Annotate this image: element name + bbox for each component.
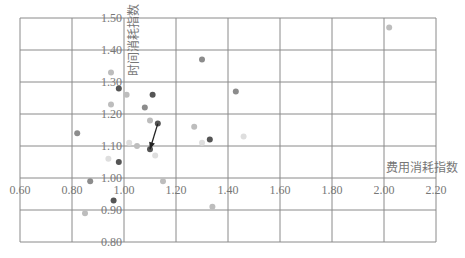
data-point — [105, 156, 111, 162]
data-point — [386, 25, 392, 31]
x-tick-label: 1.00 — [114, 183, 135, 197]
data-point — [82, 210, 88, 216]
data-point — [199, 57, 205, 63]
x-tick-label: 0.60 — [10, 183, 31, 197]
y-axis-title: 时间消耗指数 — [126, 4, 141, 76]
y-tick-label: 1.00 — [101, 171, 122, 185]
x-tick-label: 1.80 — [322, 183, 343, 197]
data-point — [150, 92, 156, 98]
x-tick-label: 0.80 — [62, 183, 83, 197]
data-point — [191, 124, 197, 130]
y-tick-label: 1.10 — [101, 139, 122, 153]
x-tick-label: 1.60 — [270, 183, 291, 197]
data-point — [124, 92, 130, 98]
data-point — [241, 133, 247, 139]
data-point — [116, 85, 122, 91]
y-tick-label: 0.80 — [101, 235, 122, 249]
data-point — [108, 69, 114, 75]
x-axis-title: 费用消耗指数 — [386, 160, 458, 175]
annotation-arrow — [149, 124, 158, 150]
data-point — [152, 153, 158, 159]
data-point — [108, 101, 114, 107]
data-point — [147, 117, 153, 123]
x-tick-label: 2.00 — [374, 183, 395, 197]
x-tick-label: 2.20 — [426, 183, 447, 197]
data-point — [209, 204, 215, 210]
y-tick-label: 1.40 — [101, 43, 122, 57]
x-tick-label: 1.20 — [166, 183, 187, 197]
x-tick-label: 1.40 — [218, 183, 239, 197]
y-tick-label: 1.50 — [101, 11, 122, 25]
scatter-chart: 0.600.801.001.201.401.601.802.002.20 0.8… — [0, 0, 465, 258]
data-point — [207, 137, 213, 143]
data-point — [134, 143, 140, 149]
data-point — [233, 89, 239, 95]
data-point — [126, 140, 132, 146]
data-point — [199, 140, 205, 146]
data-point — [74, 130, 80, 136]
y-tick-label: 0.90 — [101, 203, 122, 217]
data-point — [87, 178, 93, 184]
data-point — [116, 159, 122, 165]
y-tick-label: 1.20 — [101, 107, 122, 121]
y-axis-tick-labels: 0.800.901.001.101.201.301.401.50 — [101, 11, 122, 249]
x-axis-tick-labels: 0.600.801.001.201.401.601.802.002.20 — [10, 183, 447, 197]
grid-lines — [20, 18, 436, 242]
data-point — [142, 105, 148, 111]
data-point — [160, 178, 166, 184]
data-point — [111, 197, 117, 203]
